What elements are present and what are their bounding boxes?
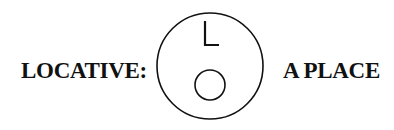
letter-l-marker bbox=[205, 21, 219, 45]
outer-circle bbox=[157, 13, 263, 119]
case-meaning-label: A PLACE bbox=[283, 59, 380, 82]
inner-circle bbox=[195, 70, 225, 100]
